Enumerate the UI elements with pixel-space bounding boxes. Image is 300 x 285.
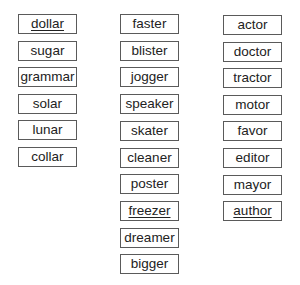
word-label: sugar xyxy=(31,43,65,58)
word-box-author: author xyxy=(223,201,282,221)
word-label: editor xyxy=(236,150,270,165)
word-label: author xyxy=(233,203,271,218)
word-box-speaker: speaker xyxy=(120,94,179,114)
word-label: actor xyxy=(237,17,267,32)
word-label: cleaner xyxy=(127,150,171,165)
word-label: skater xyxy=(131,123,168,138)
word-box-collar: collar xyxy=(18,147,77,167)
word-box-jogger: jogger xyxy=(120,67,179,87)
word-label: tractor xyxy=(233,70,271,85)
word-box-tractor: tractor xyxy=(223,68,282,88)
word-label: lunar xyxy=(32,122,62,137)
word-label: favor xyxy=(237,123,267,138)
word-label: mayor xyxy=(234,177,272,192)
word-label: freezer xyxy=(128,203,170,218)
word-box-dollar: dollar xyxy=(18,14,77,34)
word-label: faster xyxy=(133,16,167,31)
word-label: dreamer xyxy=(124,230,174,245)
word-box-actor: actor xyxy=(223,15,282,35)
word-box-grammar: grammar xyxy=(18,67,77,87)
word-label: blister xyxy=(131,43,167,58)
word-box-cleaner: cleaner xyxy=(120,148,179,168)
word-box-poster: poster xyxy=(120,174,179,194)
word-box-motor: motor xyxy=(223,95,282,115)
word-box-freezer: freezer xyxy=(120,201,179,221)
word-label: poster xyxy=(131,176,169,191)
word-label: doctor xyxy=(234,44,272,59)
word-label: speaker xyxy=(125,96,173,111)
word-box-dreamer: dreamer xyxy=(120,228,179,248)
word-box-sugar: sugar xyxy=(18,41,77,61)
word-box-editor: editor xyxy=(223,148,282,168)
word-box-lunar: lunar xyxy=(18,120,77,140)
word-box-solar: solar xyxy=(18,94,77,114)
word-box-faster: faster xyxy=(120,14,179,34)
word-label: grammar xyxy=(20,69,74,84)
word-box-blister: blister xyxy=(120,41,179,61)
word-label: collar xyxy=(31,149,63,164)
word-box-mayor: mayor xyxy=(223,175,282,195)
word-label: bigger xyxy=(131,256,169,271)
word-label: jogger xyxy=(131,69,169,84)
word-label: solar xyxy=(33,96,62,111)
word-box-bigger: bigger xyxy=(120,254,179,274)
word-box-favor: favor xyxy=(223,121,282,141)
word-label: motor xyxy=(235,97,270,112)
word-box-skater: skater xyxy=(120,121,179,141)
word-label: dollar xyxy=(31,16,64,31)
word-box-doctor: doctor xyxy=(223,42,282,62)
